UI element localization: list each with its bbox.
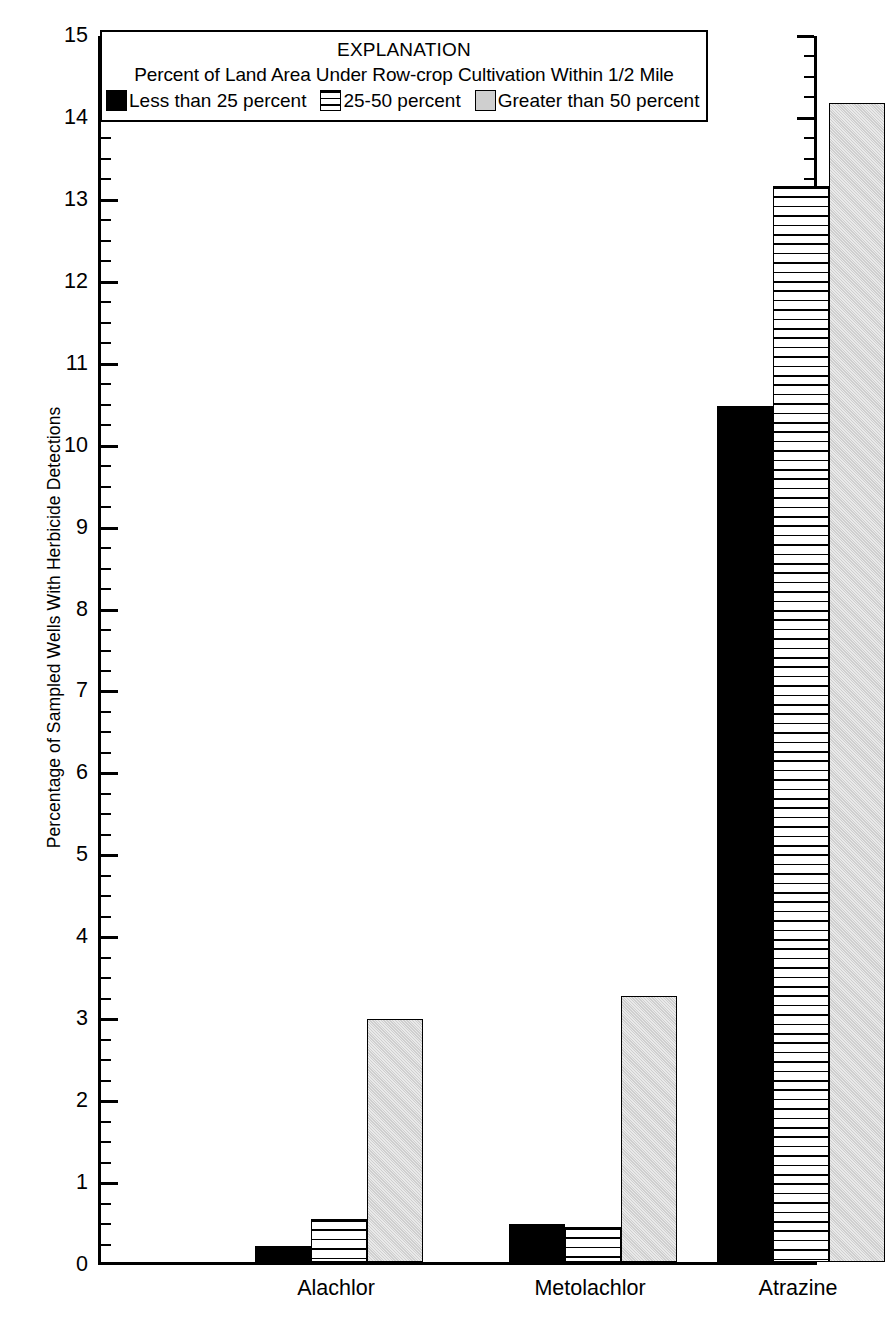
minor-tick-left <box>101 977 111 979</box>
y-tick-label-8: 8 <box>32 599 88 621</box>
minor-tick-left <box>101 568 111 570</box>
minor-tick-left <box>101 916 111 918</box>
plot-inner <box>101 36 814 1262</box>
major-tick-left <box>101 854 118 857</box>
minor-tick-left <box>101 1141 111 1143</box>
major-tick-left <box>101 1018 118 1021</box>
bar-atrazine-series-1 <box>717 406 773 1262</box>
minor-tick-left <box>101 1039 111 1041</box>
legend-swatch-3 <box>475 90 496 111</box>
minor-tick-right <box>804 55 814 57</box>
minor-tick-left <box>101 240 111 242</box>
y-tick-label-13: 13 <box>32 189 88 211</box>
minor-tick-left <box>101 342 111 344</box>
minor-tick-left <box>101 383 111 385</box>
minor-tick-left <box>101 158 111 160</box>
y-axis-title: Percentage of Sampled Wells With Herbici… <box>44 348 65 908</box>
minor-tick-left <box>101 137 111 139</box>
legend-box: EXPLANATION Percent of Land Area Under R… <box>100 30 708 122</box>
major-tick-left <box>101 690 118 693</box>
bar-atrazine-series-2 <box>773 186 829 1262</box>
minor-tick-left <box>101 834 111 836</box>
major-tick-left <box>101 609 118 612</box>
minor-tick-left <box>101 486 111 488</box>
major-tick-left <box>101 199 118 202</box>
minor-tick-left <box>101 424 111 426</box>
major-tick-right <box>797 35 814 38</box>
x-label-alachlor: Alachlor <box>206 1278 466 1300</box>
bar-alachlor-series-1 <box>255 1246 311 1262</box>
minor-tick-left <box>101 1121 111 1123</box>
minor-tick-left <box>101 1080 111 1082</box>
y-tick-label-10: 10 <box>32 435 88 457</box>
major-tick-left <box>101 936 118 939</box>
major-tick-left <box>101 445 118 448</box>
major-tick-left <box>101 772 118 775</box>
minor-tick-right <box>804 76 814 78</box>
minor-tick-right <box>804 96 814 98</box>
legend-swatch-2 <box>320 90 341 111</box>
minor-tick-left <box>101 752 111 754</box>
legend-title: EXPLANATION <box>102 38 706 62</box>
y-tick-label-12: 12 <box>32 271 88 293</box>
y-tick-label-11: 11 <box>32 353 88 375</box>
major-tick-right <box>797 117 814 120</box>
bar-metolachlor-series-1 <box>509 1224 565 1263</box>
minor-tick-left <box>101 547 111 549</box>
minor-tick-left <box>101 1059 111 1061</box>
minor-tick-left <box>101 1223 111 1225</box>
minor-tick-left <box>101 301 111 303</box>
legend-subtitle: Percent of Land Area Under Row-crop Cult… <box>102 63 706 88</box>
minor-tick-left <box>101 629 111 631</box>
minor-tick-left <box>101 998 111 1000</box>
y-tick-label-7: 7 <box>32 680 88 702</box>
y-tick-label-5: 5 <box>32 844 88 866</box>
minor-tick-left <box>101 670 111 672</box>
bar-metolachlor-series-2 <box>565 1227 621 1262</box>
minor-tick-left <box>101 404 111 406</box>
y-tick-label-2: 2 <box>32 1090 88 1112</box>
major-tick-left <box>101 1182 118 1185</box>
minor-tick-left <box>101 588 111 590</box>
minor-tick-left <box>101 650 111 652</box>
minor-tick-left <box>101 1203 111 1205</box>
y-tick-label-4: 4 <box>32 926 88 948</box>
minor-tick-right <box>804 158 814 160</box>
bar-atrazine-series-3 <box>829 103 885 1262</box>
y-tick-label-1: 1 <box>32 1172 88 1194</box>
bar-alachlor-series-2 <box>311 1219 367 1262</box>
minor-tick-left <box>101 260 111 262</box>
major-tick-left <box>101 363 118 366</box>
minor-tick-left <box>101 957 111 959</box>
y-tick-label-3: 3 <box>32 1008 88 1030</box>
bar-alachlor-series-3 <box>367 1019 423 1262</box>
minor-tick-right <box>804 137 814 139</box>
minor-tick-left <box>101 793 111 795</box>
minor-tick-left <box>101 711 111 713</box>
y-tick-label-0: 0 <box>32 1254 88 1276</box>
legend-label-3: Greater than 50 percent <box>498 91 700 110</box>
y-tick-label-9: 9 <box>32 517 88 539</box>
plot-area <box>98 36 817 1265</box>
bar-metolachlor-series-3 <box>621 996 677 1262</box>
x-label-atrazine: Atrazine <box>668 1278 889 1300</box>
minor-tick-left <box>101 895 111 897</box>
minor-tick-left <box>101 1162 111 1164</box>
minor-tick-left <box>101 731 111 733</box>
minor-tick-left <box>101 465 111 467</box>
legend-label-2: 25-50 percent <box>343 91 460 110</box>
legend-label-1: Less than 25 percent <box>129 91 306 110</box>
y-tick-label-15: 15 <box>32 25 88 47</box>
major-tick-left <box>101 1100 118 1103</box>
minor-tick-right <box>804 178 814 180</box>
minor-tick-left <box>101 322 111 324</box>
minor-tick-left <box>101 178 111 180</box>
legend-swatch-1 <box>106 90 127 111</box>
major-tick-left <box>101 527 118 530</box>
y-tick-label-6: 6 <box>32 762 88 784</box>
minor-tick-left <box>101 875 111 877</box>
minor-tick-left <box>101 219 111 221</box>
y-tick-label-14: 14 <box>32 107 88 129</box>
major-tick-left <box>101 281 118 284</box>
